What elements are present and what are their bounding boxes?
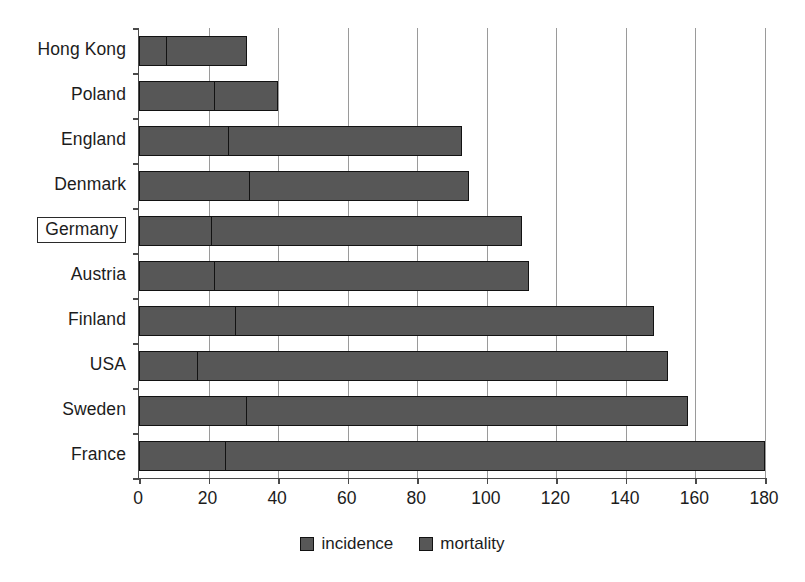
x-axis-tick [417,478,419,484]
bar-row [139,81,278,111]
legend-item-mortality: mortality [419,534,504,554]
bar-row [139,36,247,66]
bar-segment-incidence [235,306,654,336]
bar-row [139,261,529,291]
x-axis-tick-label: 180 [749,488,778,509]
bar-segment-incidence [249,171,469,201]
x-axis-tick-label: 0 [133,488,143,509]
chart-legend: incidence mortality [0,534,805,554]
bar-row [139,216,522,246]
bar-segment-mortality [139,216,212,246]
bar-segment-mortality [139,441,226,471]
bar-segment-incidence [225,441,765,471]
bar-segment-mortality [139,396,247,426]
x-axis-tick [626,478,628,484]
legend-swatch-incidence-icon [300,537,314,551]
bar-segment-incidence [214,81,278,111]
x-axis-tick-label: 120 [541,488,570,509]
x-axis-tick [139,478,141,484]
bar-segment-mortality [139,351,198,381]
y-axis-label-denmark: Denmark [0,174,126,195]
x-axis-tick [209,478,211,484]
x-axis-tick [556,478,558,484]
bar-segment-mortality [139,81,216,111]
x-axis-tick [695,478,697,484]
y-axis-label-sweden: Sweden [0,399,126,420]
legend-label-mortality: mortality [440,534,504,554]
x-axis-tick [278,478,280,484]
plot-area [138,28,765,479]
bar-row [139,306,654,336]
bar-segment-incidence [214,261,528,291]
bar-segment-incidence [246,396,689,426]
x-axis-tick [348,478,350,484]
legend-label-incidence: incidence [321,534,393,554]
bar-row [139,126,462,156]
x-axis-tick-label: 100 [471,488,500,509]
legend-item-incidence: incidence [300,534,393,554]
bar-row [139,396,688,426]
x-axis-tick-label: 40 [267,488,286,509]
bar-segment-incidence [228,126,462,156]
y-axis-label-finland: Finland [0,309,126,330]
bar-chart: Hong KongPolandEnglandDenmarkGermanyAust… [0,0,805,582]
y-axis-label-france: France [0,444,126,465]
x-axis-tick-label: 60 [337,488,356,509]
x-axis-tick-label: 80 [406,488,425,509]
bar-row [139,351,668,381]
x-axis-tick [487,478,489,484]
gridline [765,28,766,478]
y-axis-label-hong-kong: Hong Kong [0,39,126,60]
x-axis-tick-label: 140 [610,488,639,509]
bar-segment-mortality [139,306,236,336]
x-axis-tick-label: 160 [680,488,709,509]
x-axis-tick [765,478,767,484]
y-axis-label-austria: Austria [0,264,126,285]
bar-row [139,441,765,471]
bar-segment-incidence [197,351,668,381]
bar-segment-mortality [139,261,216,291]
bar-segment-incidence [166,36,247,66]
x-axis-tick-label: 20 [198,488,217,509]
y-axis-label-germany: Germany [37,217,126,243]
bar-segment-mortality [139,36,167,66]
y-axis-label-usa: USA [0,354,126,375]
bar-row [139,171,469,201]
bar-segment-mortality [139,126,229,156]
y-axis-label-england: England [0,129,126,150]
y-axis-label-poland: Poland [0,84,126,105]
bar-series-group [139,28,765,478]
bar-segment-incidence [211,216,522,246]
legend-swatch-mortality-icon [419,537,433,551]
bar-segment-mortality [139,171,250,201]
